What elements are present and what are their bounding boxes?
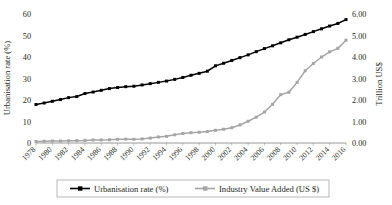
series-data-point	[263, 111, 266, 114]
series-data-point	[67, 139, 70, 142]
y-axis-right-title: Trillion US$	[374, 62, 384, 106]
series-data-point	[271, 44, 274, 47]
x-axis-tick-label: 2012	[297, 145, 314, 162]
series-data-point	[214, 64, 217, 67]
series-data-point	[181, 76, 184, 79]
series-data-point	[51, 100, 54, 103]
series-data-point	[124, 85, 127, 88]
series-data-point	[320, 56, 323, 59]
y-axis-left-title: Urbanisation rate (%)	[2, 41, 12, 116]
series-data-point	[116, 138, 119, 141]
series-data-point	[198, 131, 201, 134]
series-line	[36, 40, 346, 141]
x-axis-tick-label: 1994	[151, 145, 168, 162]
series-data-point	[328, 25, 331, 28]
series-data-point	[67, 96, 70, 99]
x-axis-ticks: 1978198019821984198619881990199219941996…	[20, 143, 347, 162]
series-data-point	[75, 95, 78, 98]
y-axis-left-tick-label: 20	[23, 96, 31, 105]
series-data-point	[230, 126, 233, 129]
series-data-point	[271, 103, 274, 106]
series-data-point	[92, 138, 95, 141]
series-data-point	[173, 78, 176, 81]
series-data-point	[43, 140, 46, 143]
series-data-point	[206, 70, 209, 73]
series-data-point	[157, 81, 160, 84]
x-axis-tick-label: 1992	[134, 145, 151, 162]
series-data-point	[247, 120, 250, 123]
series-data-point	[328, 50, 331, 53]
series-line	[36, 20, 346, 105]
series-data-point	[238, 123, 241, 126]
y-axis-left-tick-label: 40	[23, 53, 31, 62]
series-data-point	[149, 137, 152, 140]
series-data-point	[230, 59, 233, 62]
series-data-point	[345, 39, 348, 42]
legend-label: Industry Value Added (US $)	[219, 184, 319, 194]
series-data-point	[173, 133, 176, 136]
series-data-point	[287, 91, 290, 94]
series-data-point	[238, 56, 241, 59]
x-axis-tick-label: 2002	[216, 145, 233, 162]
series-data-point	[279, 41, 282, 44]
series-data-point	[132, 85, 135, 88]
series-data-point	[141, 137, 144, 140]
series-data-point	[206, 130, 209, 133]
series-data-point	[304, 69, 307, 72]
dual-axis-line-chart: 0102030405060 0.001.002.003.004.005.006.…	[0, 0, 392, 205]
series-data-point	[312, 62, 315, 65]
series-data-point	[132, 138, 135, 141]
series-data-point	[296, 36, 299, 39]
x-axis-tick-label: 2014	[314, 145, 331, 162]
series-data-point	[345, 18, 348, 21]
series-data-point	[263, 47, 266, 50]
series-data-point	[108, 87, 111, 90]
x-axis-tick-label: 2004	[232, 145, 249, 162]
series-data-point	[149, 82, 152, 85]
series-data-point	[83, 139, 86, 142]
y-axis-right-tick-label: 5.00	[352, 32, 366, 41]
legend-label: Urbanisation rate (%)	[94, 184, 169, 194]
series-data-point	[279, 93, 282, 96]
x-axis-tick-label: 2006	[248, 145, 265, 162]
legend-item[interactable]: Urbanisation rate (%)	[70, 184, 169, 194]
x-axis-tick-label: 2000	[199, 145, 216, 162]
series-data-point	[35, 103, 38, 106]
series-data-point	[59, 140, 62, 143]
x-axis-tick-label: 1984	[69, 145, 86, 162]
legend: Urbanisation rate (%)Industry Value Adde…	[57, 180, 329, 197]
series-data-point	[35, 140, 38, 143]
y-axis-right-tick-label: 6.00	[352, 10, 366, 19]
series-data-point	[59, 98, 62, 101]
series-data-point	[124, 138, 127, 141]
series-data-point	[43, 102, 46, 105]
x-axis-tick-label: 1996	[167, 145, 184, 162]
x-axis-tick-label: 1978	[20, 145, 37, 162]
legend-item[interactable]: Industry Value Added (US $)	[195, 184, 319, 194]
x-axis-tick-label: 2016	[330, 145, 347, 162]
chart-figure: 0102030405060 0.001.002.003.004.005.006.…	[0, 0, 392, 205]
series-data-point	[336, 22, 339, 25]
x-axis-tick-label: 1990	[118, 145, 135, 162]
series-data-point	[336, 47, 339, 50]
y-axis-right-tick-label: 3.00	[352, 75, 366, 84]
series-data-point	[247, 53, 250, 56]
series-data-point	[222, 128, 225, 131]
x-axis-tick-label: 1986	[85, 145, 102, 162]
series-data-point	[157, 135, 160, 138]
series-data-point	[214, 129, 217, 132]
x-axis-tick-label: 1980	[36, 145, 53, 162]
series-data-point	[83, 92, 86, 95]
y-axis-left-tick-label: 50	[23, 32, 31, 41]
series-data-point	[181, 132, 184, 135]
series-data-point	[296, 81, 299, 84]
x-axis-tick-label: 2008	[265, 145, 282, 162]
x-axis-tick-label: 1982	[53, 145, 70, 162]
series-data-point	[108, 138, 111, 141]
x-axis-tick-label: 1988	[102, 145, 119, 162]
series-data-point	[255, 50, 258, 53]
y-axis-left-tick-label: 30	[23, 75, 31, 84]
series-urbanisation-rate	[35, 18, 348, 106]
series-data-point	[51, 140, 54, 143]
x-axis-tick-label: 1998	[183, 145, 200, 162]
